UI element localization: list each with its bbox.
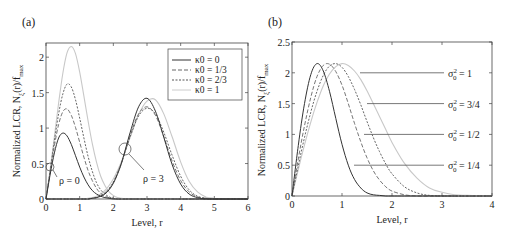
panel-label-a: (a) [22, 15, 35, 29]
y-axis-label-a: Normalized LCR, Nξ(r)/fmax [11, 64, 25, 177]
legend-entry: κ0 = 1 [195, 85, 220, 95]
y-tick-label: 2 [39, 52, 44, 63]
panel-b: (b) 0123400.511.522.5 Level, r Normalize… [256, 15, 495, 225]
y-axis-label-b: Normalized LCR, Nξ(r)/fmax [256, 63, 270, 176]
y-tick-label: 0 [39, 194, 44, 205]
y-tick-label: 0.5 [278, 160, 291, 171]
x-tick-label: 2 [111, 202, 116, 213]
inline-labels-b: σ20 = 1σ20 = 3/4σ20 = 1/2σ20 = 1/4 [354, 67, 480, 174]
x-axis-label-a: Level, r [131, 217, 163, 228]
annotation-text: σ20 = 3/4 [448, 98, 480, 113]
y-tick-label: 2 [285, 68, 290, 79]
x-tick-label: 5 [212, 202, 217, 213]
x-tick-label: 4 [178, 202, 183, 213]
plot-area-b [292, 42, 492, 196]
panel-a: (a) 012345600.511.52 Level, r Normalized… [11, 15, 251, 228]
x-tick-label: 2 [390, 199, 395, 210]
annotation-text: σ20 = 1/2 [448, 128, 480, 143]
legend-entry: κ0 = 1/3 [195, 65, 227, 75]
y-tick-label: 1.5 [278, 99, 291, 110]
annotation-text: ρ = 3 [143, 173, 164, 184]
x-tick-label: 4 [490, 199, 495, 210]
chart-figure: (a) 012345600.511.52 Level, r Normalized… [0, 0, 511, 239]
x-tick-label: 3 [440, 199, 445, 210]
y-tick-label: 2.5 [278, 37, 291, 48]
x-tick-label: 3 [145, 202, 150, 213]
series-line [46, 133, 248, 199]
annotation-leader [129, 154, 144, 170]
x-tick-label: 0 [290, 199, 295, 210]
annotation-text: σ20 = 1 [448, 67, 472, 82]
y-tick-label: 0 [285, 191, 290, 202]
y-tick-label: 0.5 [32, 159, 45, 170]
legend-entry: κ0 = 0 [195, 55, 220, 65]
annotation-text: ρ = 0 [59, 175, 80, 186]
x-tick-label: 6 [246, 202, 251, 213]
x-tick-label: 1 [340, 199, 345, 210]
x-axis-label-b: Level, r [376, 214, 408, 225]
y-tick-label: 1 [285, 129, 290, 140]
x-tick-label: 1 [77, 202, 82, 213]
legend-a: κ0 = 0 κ0 = 1/3 κ0 = 2/3 κ0 = 1 [168, 49, 242, 100]
x-tick-label: 0 [44, 202, 49, 213]
legend-entry: κ0 = 2/3 [195, 75, 227, 85]
annotation-leader [53, 170, 57, 177]
panel-label-b: (b) [268, 15, 282, 29]
y-tick-label: 1 [39, 123, 44, 134]
y-tick-label: 1.5 [32, 88, 45, 99]
annotation-text: σ20 = 1/4 [448, 159, 480, 174]
